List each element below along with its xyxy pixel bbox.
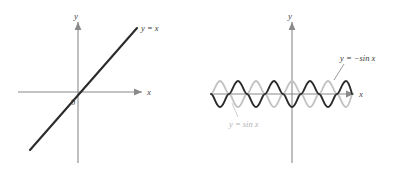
sine-label: y = sin x [228,119,259,129]
math-figure: x y 0 y = x [0,0,412,175]
origin-label: 0 [71,97,75,107]
dark-curve-leader-line [334,64,344,80]
identity-line [30,28,137,150]
negative-sine-label: y = −sin x [339,53,376,63]
y-axis-label: y [73,11,78,21]
x-axis-arrow-icon [134,89,142,96]
y-axis-arrow-icon [75,22,82,30]
y-axis-label: y [287,11,292,21]
sine-panel: x y y = −sin x y = sin x [206,0,412,175]
x-axis-label: x [146,87,151,97]
x-axis-label: x [358,89,363,99]
y-axis [289,22,296,163]
identity-line-panel: x y 0 y = x [0,0,206,175]
y-axis-arrow-icon [289,22,296,30]
identity-line-label: y = x [140,23,159,33]
